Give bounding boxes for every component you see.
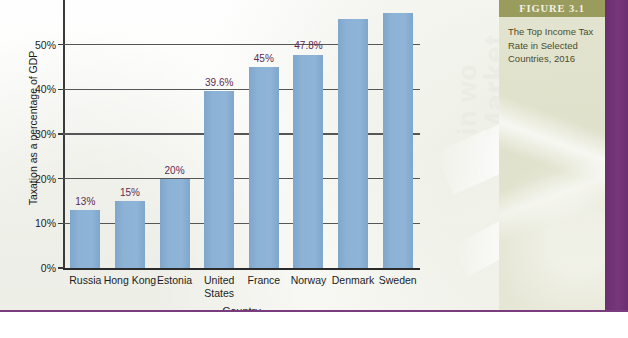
x-axis-category-label: Russia xyxy=(69,274,101,287)
bar-value-label: 15% xyxy=(120,187,140,198)
y-axis-tick-mark xyxy=(58,223,63,224)
bar-denmark xyxy=(338,19,368,268)
y-axis-tick-label: 50% xyxy=(35,39,56,51)
x-axis-category-label: Hong Kong xyxy=(104,274,157,287)
x-axis-category-label: Denmark xyxy=(332,274,375,287)
bar-value-label: 20% xyxy=(165,165,185,176)
y-axis-tick-mark xyxy=(58,44,63,45)
x-axis-line xyxy=(63,268,420,270)
y-axis-tick-label: 0% xyxy=(41,262,56,274)
y-axis-tick-mark xyxy=(58,89,63,90)
bar-value-label: 13% xyxy=(75,196,95,207)
plot-area: 0%10%20%30%40%50%13%Russia15%Hong Kong20… xyxy=(63,0,420,268)
x-axis-category-label: Estonia xyxy=(157,274,192,287)
bar-chart: Taxation as a percentage of GDP 0%10%20%… xyxy=(0,0,470,310)
y-axis-tick-label: 10% xyxy=(35,217,56,229)
x-axis-category-label: Sweden xyxy=(379,274,417,287)
bar-norway xyxy=(293,55,323,269)
bar-value-label: 45% xyxy=(254,53,274,64)
bar-value-label: 47.8% xyxy=(294,40,322,51)
purple-side-bar xyxy=(605,0,628,310)
y-axis-tick-mark xyxy=(58,178,63,179)
x-axis-category-label: France xyxy=(247,274,280,287)
y-axis-tick-mark xyxy=(58,133,63,134)
bar-united-states xyxy=(204,91,234,268)
page-footer-whitespace xyxy=(0,312,628,338)
y-axis-tick-mark xyxy=(58,267,63,268)
y-axis-tick-label: 40% xyxy=(35,83,56,95)
bar-sweden xyxy=(383,13,413,268)
figure-number-header: FIGURE 3.1 xyxy=(499,0,605,17)
y-axis-tick-label: 20% xyxy=(35,173,56,185)
bar-russia xyxy=(70,210,100,268)
figure-caption-text: The Top Income Tax Rate in Selected Coun… xyxy=(508,25,600,66)
bar-france xyxy=(249,67,279,268)
x-axis-category-label: Norway xyxy=(291,274,327,287)
figure-page: Market in wo Diesel Taxation as a percen… xyxy=(0,0,628,338)
figure-caption-panel: FIGURE 3.1 The Top Income Tax Rate in Se… xyxy=(499,0,605,310)
y-axis-tick-label: 30% xyxy=(35,128,56,140)
bar-estonia xyxy=(160,179,190,268)
bar-value-label: 39.6% xyxy=(205,77,233,88)
bar-hong-kong xyxy=(115,201,145,268)
x-axis-category-label: United States xyxy=(204,274,234,299)
